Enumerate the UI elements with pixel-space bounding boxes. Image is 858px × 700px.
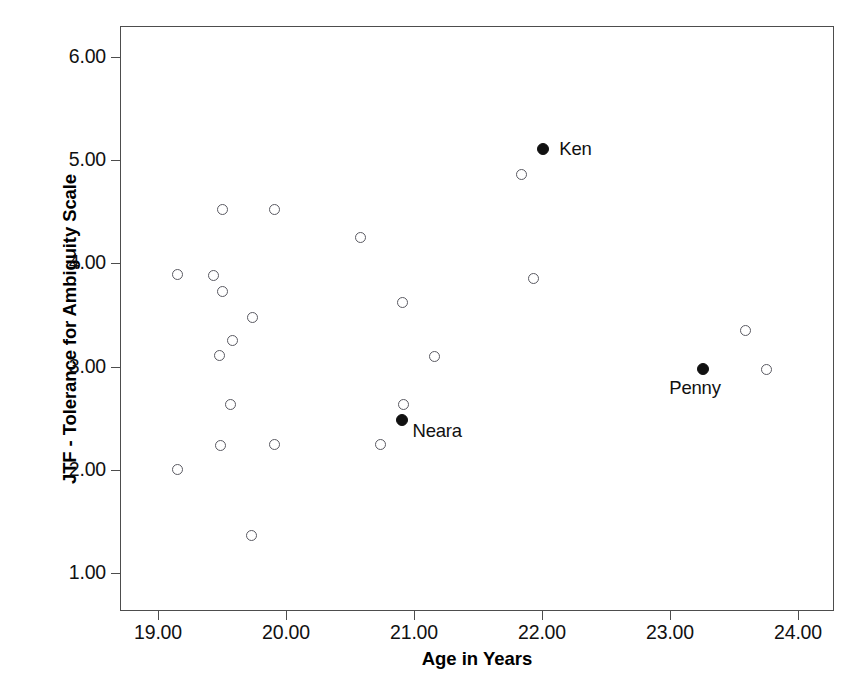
- x-axis-tick: [158, 611, 159, 620]
- x-axis-tick: [286, 611, 287, 620]
- x-axis-tick-label: 23.00: [625, 622, 715, 642]
- x-axis-tick-label: 22.00: [497, 622, 587, 642]
- x-axis-tick: [670, 611, 671, 620]
- y-axis-tick: [111, 160, 120, 161]
- x-axis-tick-label: 24.00: [753, 622, 843, 642]
- x-axis-title: Age in Years: [120, 648, 834, 670]
- y-axis-tick: [111, 573, 120, 574]
- x-axis-tick-label: 19.00: [113, 622, 203, 642]
- y-axis-tick: [111, 57, 120, 58]
- x-axis-tick: [414, 611, 415, 620]
- y-axis-tick: [111, 263, 120, 264]
- y-axis-tick: [111, 470, 120, 471]
- x-axis-tick: [542, 611, 543, 620]
- y-axis-tick: [111, 367, 120, 368]
- y-axis-tick-label: 1.00: [44, 563, 106, 582]
- x-axis-tick-label: 21.00: [369, 622, 459, 642]
- plot-area-frame: [120, 26, 834, 611]
- x-axis-tick-label: 20.00: [241, 622, 331, 642]
- y-axis-title: JTF - Tolerance for Ambiguity Scale: [59, 119, 81, 539]
- y-axis-tick-label: 6.00: [44, 47, 106, 66]
- scatter-plot-figure: JTF - Tolerance for Ambiguity Scale 1.00…: [0, 0, 858, 700]
- x-axis-tick: [798, 611, 799, 620]
